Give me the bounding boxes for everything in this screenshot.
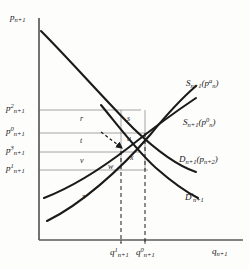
price-tick-p3: p3n+1 [6, 145, 25, 156]
region-label-s: s [127, 115, 130, 123]
x-axis-label: qn+1 [212, 247, 227, 257]
curve-label-demand-prime: D'n+1 [185, 192, 204, 203]
price-tick-p0: p0n+1 [6, 126, 25, 137]
quantity-tick-q1: q1n+1 [110, 247, 129, 258]
region-label-x: x [130, 154, 134, 162]
region-label-r: r [80, 115, 83, 123]
price-tick-p1: p1n+1 [6, 163, 25, 174]
supply-demand-figure: pn+1 qn+1 p2n+1 p0n+1 p3n+1 p1n+1 q1n+1 … [0, 0, 249, 269]
price-tick-p2: p2n+1 [6, 103, 25, 114]
curve-label-demand-next: Dn+1(pn+2) [179, 155, 218, 165]
diagram-canvas [0, 0, 249, 269]
region-label-w: w [108, 163, 113, 171]
region-label-t: t [80, 137, 82, 145]
region-label-z: z [82, 193, 85, 201]
curve-paths [41, 31, 198, 221]
shift-arrow-icon [101, 132, 122, 148]
y-axis-label: pn+1 [10, 13, 25, 23]
quantity-tick-q0: q0n+1 [136, 247, 155, 258]
region-label-u: u [127, 135, 131, 143]
region-label-v: v [80, 157, 84, 165]
curve-label-supply-0: Sn+1(p0n) [183, 117, 215, 128]
curve-label-supply-a: Sn+1(pan) [186, 78, 218, 89]
curve-demand-next [41, 31, 196, 172]
